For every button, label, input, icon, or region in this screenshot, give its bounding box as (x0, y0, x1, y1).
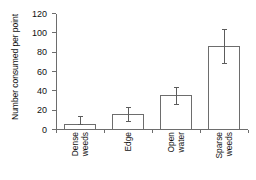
x-axis-label-line: Sparse (215, 132, 223, 159)
error-bar (176, 87, 177, 105)
y-tick-20: 20 (52, 110, 56, 111)
y-tick-80: 80 (52, 52, 56, 53)
y-tick-label: 60 (37, 67, 47, 77)
error-bar-cap-top (78, 116, 83, 117)
error-bar-cap-bottom (174, 104, 179, 105)
y-tick-label: 40 (37, 86, 47, 96)
y-axis-label: Number consumed per point (10, 14, 20, 120)
y-tick-label: 120 (32, 9, 47, 19)
error-bar-cap-top (126, 107, 131, 108)
y-tick-label: 0 (42, 125, 47, 135)
x-axis-label-edge: Edge (104, 132, 152, 180)
x-axis-label-line: Edge (124, 132, 132, 152)
y-tick-label: 100 (32, 28, 47, 38)
x-axis-label-dense-weeds: Denseweeds (56, 132, 104, 180)
y-tick-40: 40 (52, 90, 56, 91)
error-bar (224, 29, 225, 64)
bar-chart-figure: Number consumed per point 02040608010012… (0, 0, 256, 180)
error-bar-cap-bottom (78, 124, 83, 125)
y-tick-60: 60 (52, 71, 56, 72)
x-axis-label-line: weeds (225, 132, 233, 156)
plot-area: 020406080100120 (56, 14, 248, 130)
x-tick (248, 130, 249, 133)
y-axis-line (56, 14, 57, 130)
x-axis-label-line: Dense (71, 132, 79, 156)
x-axis-label-line: weeds (81, 132, 89, 156)
error-bar (128, 107, 129, 122)
error-bar-cap-top (174, 87, 179, 88)
x-axis-category-labels: DenseweedsEdgeOpenwaterSparseweeds (56, 132, 248, 180)
y-tick-label: 20 (37, 105, 47, 115)
error-bar-cap-bottom (222, 63, 227, 64)
y-axis-label-container: Number consumed per point (4, 0, 26, 134)
y-tick-100: 100 (52, 32, 56, 33)
x-axis-label-open-water: Openwater (152, 132, 200, 180)
x-axis-label-line: Open (167, 132, 175, 153)
error-bar-cap-bottom (126, 121, 131, 122)
error-bar (80, 116, 81, 126)
x-axis-label-line: water (177, 132, 185, 152)
y-tick-120: 120 (52, 13, 56, 14)
y-tick-label: 80 (37, 47, 47, 57)
x-axis-label-sparse-weeds: Sparseweeds (200, 132, 248, 180)
error-bar-cap-top (222, 29, 227, 30)
